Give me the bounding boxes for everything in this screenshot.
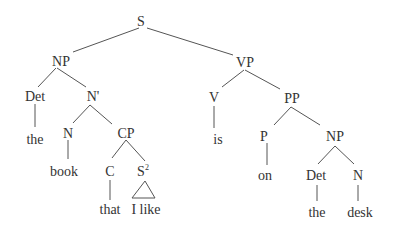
word-book: book xyxy=(50,164,78,179)
node-p: P xyxy=(260,129,268,144)
word-that: that xyxy=(100,202,121,217)
node-s2: S2 xyxy=(137,163,149,179)
word-desk: desk xyxy=(347,205,373,220)
node-object-n: N xyxy=(353,168,363,183)
node-nbar: N' xyxy=(87,89,100,104)
node-s: S xyxy=(137,14,145,29)
node-object-np: NP xyxy=(326,129,344,144)
node-c: C xyxy=(105,164,114,179)
node-v: V xyxy=(209,90,219,105)
syntax-tree: S NP Det N' the N CP book C S2 that I li… xyxy=(0,0,393,232)
word-is: is xyxy=(213,132,222,147)
node-pp: PP xyxy=(284,91,300,106)
words-i-like: I like xyxy=(131,202,160,217)
node-subject-np: NP xyxy=(52,54,70,69)
node-cp: CP xyxy=(117,126,134,141)
node-object-det: Det xyxy=(306,168,326,183)
word-the-2: the xyxy=(308,205,325,220)
word-the: the xyxy=(26,132,43,147)
node-n: N xyxy=(63,126,73,141)
word-on: on xyxy=(258,168,272,183)
node-det: Det xyxy=(25,89,45,104)
node-vp: VP xyxy=(236,55,254,70)
